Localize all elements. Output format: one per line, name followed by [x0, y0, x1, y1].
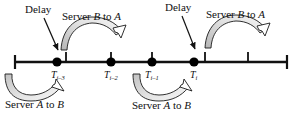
arc-body [133, 74, 188, 101]
label-text-server-a: A [114, 10, 121, 22]
label-text-prefix: Server [62, 10, 93, 22]
label-text-server-b: B [184, 99, 191, 111]
delay-label-right: Delay [165, 2, 191, 13]
event-label-subscript: i–2 [110, 74, 118, 81]
event-label-subscript: i–3 [57, 74, 65, 81]
label-text-middle: to [100, 10, 114, 22]
event-label-t-i-1: Ti–1 [145, 70, 159, 80]
server-b-to-a-label-left: Server B to A [62, 11, 121, 22]
event-label-subscript: i [196, 74, 198, 81]
label-text-prefix: Server [5, 98, 36, 110]
server-b-to-a-label-right: Server B to A [206, 9, 265, 20]
event-dot-t-i [189, 57, 198, 66]
label-text-middle: to [43, 98, 57, 110]
event-label-t-i-2: Ti–2 [104, 70, 118, 80]
event-label-t-i: Ti [190, 70, 197, 80]
label-text-server-a: A [258, 8, 265, 20]
event-label-base: T [104, 69, 110, 80]
server-a-to-b-label-left: Server A to B [5, 99, 64, 110]
arc-arrow-server-a-to-b-right [133, 74, 192, 101]
event-label-base: T [190, 69, 196, 80]
event-label-base: T [145, 69, 151, 80]
event-label-subscript: i–1 [151, 74, 159, 81]
delay-label-left: Delay [25, 4, 51, 15]
timeline-diagram: Delay Delay Server B to A Server B to A … [0, 0, 301, 121]
label-text-prefix: Server [206, 8, 237, 20]
event-label-t-i-3: Ti–3 [51, 70, 65, 80]
event-dot-t-i-2 [106, 57, 115, 66]
label-text-server-b: B [57, 98, 64, 110]
label-text-middle: to [170, 99, 184, 111]
label-text-middle: to [244, 8, 258, 20]
event-label-base: T [51, 69, 57, 80]
event-dot-t-i-3 [52, 57, 61, 66]
delay-arrow-left [44, 18, 58, 50]
label-text-prefix: Server [132, 99, 163, 111]
server-a-to-b-label-right: Server A to B [132, 100, 191, 111]
event-dot-t-i-1 [147, 57, 156, 66]
delay-arrow-right [182, 16, 195, 49]
